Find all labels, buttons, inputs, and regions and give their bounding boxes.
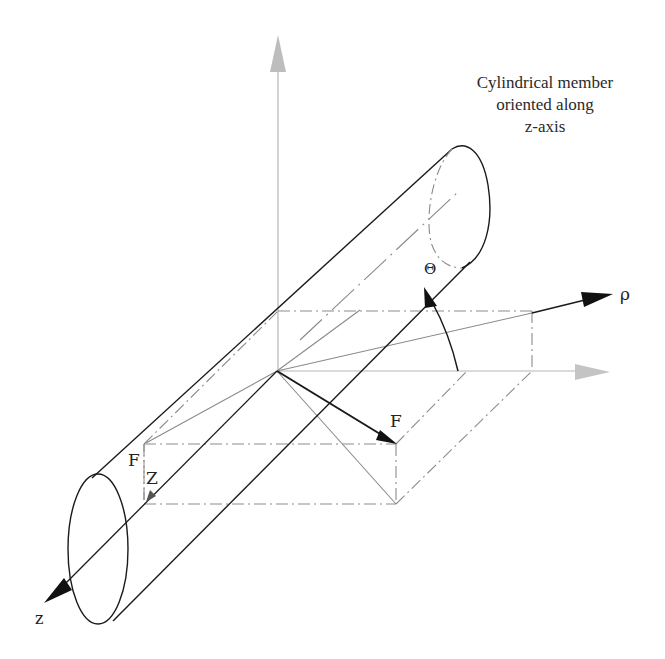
cylinder-far-end-visible [452,146,490,268]
caption-line-3: z-axis [525,117,566,136]
cylinder [68,146,490,624]
force-z-label-f: F [128,450,140,470]
horizontal-axis-arrow-icon [575,364,610,380]
cylinder-near-end [68,474,128,624]
z-axis-label: z [35,609,43,628]
cylinder-far-end-hidden [429,149,462,268]
vertical-axis-arrow-icon [270,35,286,72]
force-arrow-icon [376,430,397,444]
theta-label: Θ [424,260,436,278]
cylindrical-coordinates-diagram: Cylindrical member oriented along z-axis… [0,0,665,659]
caption-line-1: Cylindrical member [477,73,614,92]
theta-angle [424,287,458,371]
force-z-label-z: Z [146,468,158,488]
z-axis [44,371,277,603]
force-vector [277,371,397,444]
projection-lines [146,310,532,504]
force-z-arrow-icon [146,490,156,502]
cylinder-bottom-edge [113,262,470,621]
force-label: F [390,411,402,431]
caption-line-2: oriented along [496,95,594,114]
rho-arrow-icon [581,292,613,307]
rho-label: ρ [620,284,630,304]
rho-vector [532,292,613,313]
